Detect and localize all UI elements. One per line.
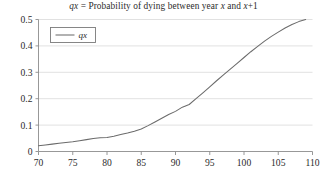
chart-container: qx = Probability of dying between year x… xyxy=(0,0,327,178)
x-tick-label: 80 xyxy=(102,157,112,168)
x-tick-label: 105 xyxy=(271,157,286,168)
y-tick-label: 0.2 xyxy=(21,93,33,104)
x-tick-label: 95 xyxy=(205,157,215,168)
chart-legend: qx xyxy=(51,28,96,43)
x-tick-label: 70 xyxy=(34,157,44,168)
x-axis: 707580859095100105110 xyxy=(34,152,320,168)
x-tick-label: 90 xyxy=(171,157,181,168)
x-tick-label: 85 xyxy=(136,157,146,168)
legend-label: qx xyxy=(79,30,88,40)
y-tick-label: 0.4 xyxy=(21,40,33,51)
y-axis: 00.10.20.30.40.5 xyxy=(21,14,39,157)
y-tick-label: 0.5 xyxy=(21,14,33,25)
y-tick-label: 0 xyxy=(28,146,33,157)
y-tick-label: 0.3 xyxy=(21,67,33,78)
x-tick-label: 75 xyxy=(68,157,78,168)
x-tick-label: 110 xyxy=(305,157,319,168)
x-tick-label: 100 xyxy=(237,157,252,168)
y-tick-label: 0.1 xyxy=(21,120,33,131)
chart-plot-area: 00.10.20.30.40.5 707580859095100105110 q… xyxy=(0,0,327,178)
